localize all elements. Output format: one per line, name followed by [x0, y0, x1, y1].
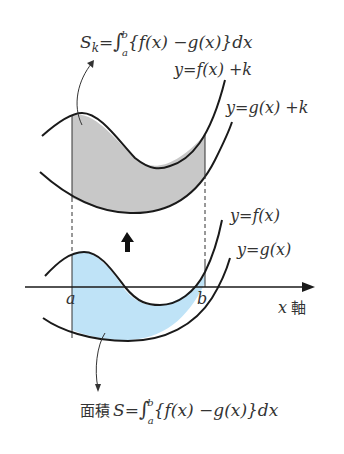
- callout-top-arrowhead-icon: [87, 60, 94, 68]
- top-formula: Sk=∫ba{f(x) −g(x)}dx: [80, 29, 253, 58]
- bottom-formula: 面積S=∫ba{f(x) −g(x)}dx: [80, 397, 279, 426]
- area-shift-diagram: Sk=∫ba{f(x) −g(x)}dx y=f(x) +k y=g(x) +k…: [0, 0, 344, 454]
- x-axis-label: x軸: [278, 298, 306, 317]
- callout-bottom-arrow: [96, 333, 105, 388]
- x-axis-arrowhead-icon: [302, 282, 315, 292]
- label-g-plus-k: y=g(x) +k: [225, 98, 308, 117]
- label-a: a: [66, 289, 76, 308]
- label-f-plus-k: y=f(x) +k: [173, 60, 252, 79]
- shift-up-arrow-icon: [121, 232, 134, 252]
- label-f: y=f(x): [229, 206, 280, 225]
- callout-bottom-arrowhead-icon: [95, 384, 101, 392]
- label-b: b: [197, 289, 207, 308]
- label-g: y=g(x): [236, 240, 291, 259]
